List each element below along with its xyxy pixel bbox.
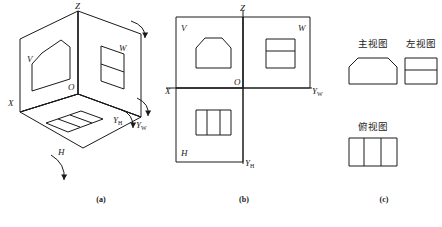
panel-a-label-x: X [7,98,14,108]
panel-c-front-view-shape [349,58,397,84]
panel-b-label-yh: YH [245,158,255,169]
panel-a-label-o: O [68,82,75,92]
panel-b-label-o: O [234,77,241,87]
engineering-drawing-figure: Z X O V W H YW YH (a) Z X O V [0,0,442,227]
panel-a-h-shape-divider-1 [58,119,80,127]
panel-b-label-h: H [180,148,188,158]
panel-b-w-shape [266,39,295,68]
panel-b-label-yw: YW [312,86,323,97]
panel-b-v-shape [196,38,231,68]
panel-a-axis-ox [20,94,78,112]
panel-a-caption: (a) [96,195,106,204]
panel-a-w-rotation-arrow-bottom [137,98,148,116]
panel-b-label-z: Z [240,3,246,13]
panel-a-label-z: Z [75,1,81,11]
panel-b-label-v: V [181,23,188,33]
panel-a-w-arrow-head-top [142,32,148,38]
panel-b-label-w: W [298,23,307,33]
panel-a-w-rotation-arrow-top [131,21,145,38]
panel-a-w-arrow-head-bottom [145,110,151,116]
panel-c-left-view-label: 左视图 [406,38,436,49]
panel-c-top-view-label: 俯视图 [358,121,388,132]
panel-c-front-view-label: 主视图 [358,38,388,49]
panel-b-label-x: X [164,86,171,96]
panel-b: Z X O V W H YW YH (b) [164,3,323,204]
panel-a-h-plane [20,94,141,148]
panel-a-label-yh: YH [113,115,123,126]
panel-a-label-yw: YW [136,120,147,131]
panel-a: Z X O V W H YW YH (a) [7,1,151,204]
panel-a-h-shape [46,111,103,132]
panel-c-top-view-shape [349,138,397,166]
panel-a-h-shape-divider-2 [70,115,92,123]
panel-c-left-view-shape [405,58,437,84]
panel-b-h-shape [196,110,231,135]
panel-a-label-h: H [57,147,65,157]
figure-root: Z X O V W H YW YH (a) Z X O V [0,0,442,227]
panel-a-h-arrow-head-bottom [61,174,67,180]
panel-a-w-shape-divider [101,64,124,72]
panel-a-label-w: W [119,43,128,53]
panel-c-caption: (c) [380,195,389,204]
panel-a-w-plane [78,11,141,117]
panel-c: 主视图 左视图 俯视图 (c) [349,38,437,204]
panel-b-caption: (b) [239,195,249,204]
panel-a-v-shape [32,40,70,91]
